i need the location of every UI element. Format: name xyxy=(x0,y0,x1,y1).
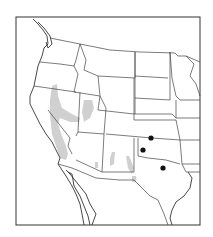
locality-oklahoma-panhandle xyxy=(148,135,153,140)
locality-texas-panhandle xyxy=(140,147,145,152)
range-arizona xyxy=(95,162,98,168)
locality-north-texas xyxy=(160,165,165,170)
range-map xyxy=(0,0,213,237)
